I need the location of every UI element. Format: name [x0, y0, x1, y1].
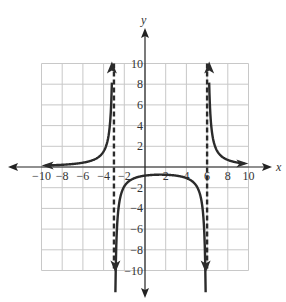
x-tick-label: −10 [32, 169, 51, 183]
x-tick-label: 10 [243, 169, 255, 183]
y-tick-label: 6 [137, 98, 143, 112]
x-tick-label: −8 [56, 169, 69, 183]
x-axis-label: x [275, 160, 282, 174]
y-tick-label: −2 [130, 181, 143, 195]
y-tick-label: −6 [130, 222, 143, 236]
x-tick-label: 8 [225, 169, 231, 183]
y-tick-label: 10 [131, 57, 143, 71]
y-tick-label: 8 [137, 77, 143, 91]
y-tick-label: 4 [137, 119, 143, 133]
y-tick-label: 2 [137, 139, 143, 153]
y-axis-label: y [140, 13, 147, 27]
x-tick-label: 4 [183, 169, 189, 183]
x-tick-label: −4 [97, 169, 110, 183]
x-tick-label: −6 [77, 169, 90, 183]
y-tick-label: −4 [130, 201, 143, 215]
y-tick-label: −10 [124, 264, 143, 278]
rational-function-graph: −10−8−6−4−2246810−10−8−6−4−2246810 x y [0, 0, 286, 302]
left-branch-curve [46, 83, 112, 166]
right-branch-curve [209, 83, 244, 164]
y-tick-label: −8 [130, 243, 143, 257]
